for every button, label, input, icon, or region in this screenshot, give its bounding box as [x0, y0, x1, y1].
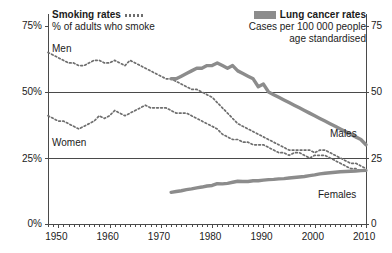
- legend-smoking-title-row: Smoking rates: [52, 9, 155, 21]
- solid-line-icon: [254, 9, 276, 21]
- legend-smoking-subtitle: % of adults who smoke: [52, 21, 155, 33]
- series-line-women: [48, 105, 366, 171]
- legend-smoking-title: Smoking rates: [52, 9, 121, 21]
- ytick-left-75: 75%: [2, 21, 42, 31]
- xtick-2010: 2010: [0, 232, 392, 242]
- ytick-left-0: 0%: [2, 219, 42, 229]
- ytick-right-0: 0: [371, 219, 377, 229]
- legend-lung-cancer-rates: Lung cancer rates Cases per 100 000 peop…: [249, 9, 366, 45]
- ytick-right-75: 75: [371, 21, 382, 31]
- series-label-females: Females: [318, 190, 356, 200]
- legend-cancer-title: Lung cancer rates: [280, 9, 366, 21]
- series-label-men: Men: [52, 44, 71, 54]
- ytick-left-50: 50%: [2, 87, 42, 97]
- chart-container: Smoking rates % of adults who smoke Lung…: [0, 0, 392, 253]
- legend-cancer-title-row: Lung cancer rates: [249, 9, 366, 21]
- ytick-right-25: 25: [371, 154, 382, 164]
- legend-cancer-subtitle-line1: Cases per 100 000 people: [249, 21, 366, 33]
- ytick-right-50: 50: [371, 87, 382, 97]
- legend-smoking-rates: Smoking rates % of adults who smoke: [52, 9, 155, 33]
- series-label-males: Males: [330, 129, 357, 139]
- dotted-line-icon: [125, 14, 145, 17]
- data-series: [48, 52, 366, 192]
- series-label-women: Women: [52, 138, 86, 148]
- series-line-men: [48, 52, 366, 168]
- gridlines: [48, 92, 366, 158]
- ytick-left-25: 25%: [2, 154, 42, 164]
- legend-cancer-subtitle-line2: age standardised: [249, 33, 366, 45]
